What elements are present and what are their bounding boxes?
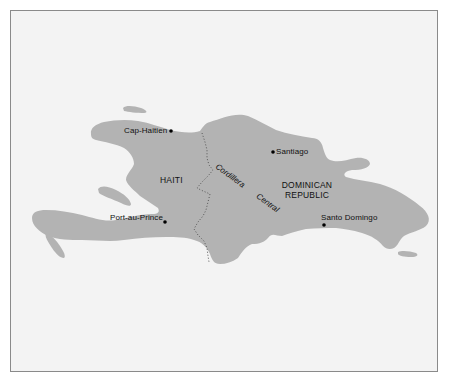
city-label-santo-domingo: Santo Domingo	[321, 214, 377, 222]
main-island	[32, 115, 429, 264]
gonave-island	[98, 186, 131, 205]
tortuga-island	[123, 106, 146, 113]
city-dot-cap-haitien	[169, 129, 173, 133]
city-label-cap-haitien: Cap-Haitien	[124, 127, 167, 135]
country-label-dr-line1: DOMINICAN	[272, 180, 342, 190]
city-dot-santiago	[271, 150, 275, 154]
map-canvas: Cap-Haitien Santiago Port-au-Prince Sant…	[0, 0, 450, 388]
country-label-dr-line2: REPUBLIC	[272, 190, 342, 200]
saona-island	[398, 251, 417, 257]
country-label-haiti: HAITI	[160, 175, 183, 185]
city-label-santiago: Santiago	[276, 148, 308, 156]
country-label-dominican-republic: DOMINICAN REPUBLIC	[272, 180, 342, 200]
city-dot-santo-domingo	[322, 223, 326, 227]
hispaniola-map	[0, 0, 450, 388]
city-label-port-au-prince: Port-au-Prince	[110, 214, 163, 222]
city-dot-port-au-prince	[163, 220, 167, 224]
